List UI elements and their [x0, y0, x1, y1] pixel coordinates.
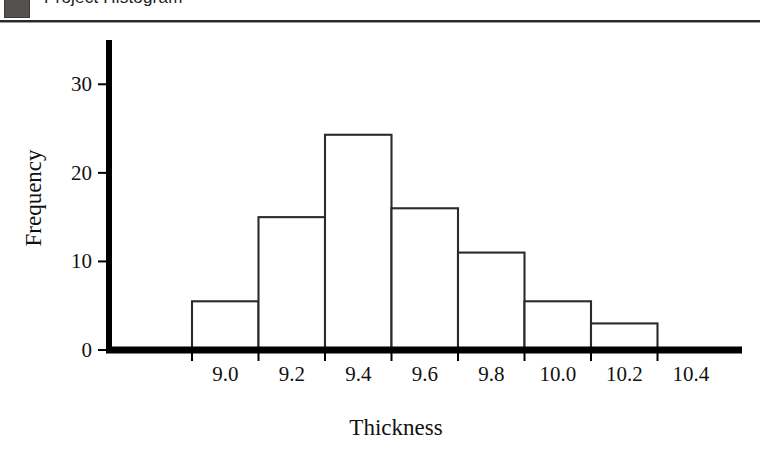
x-axis-title: Thickness [349, 415, 442, 440]
figure-header: Project Histogram [0, 0, 760, 23]
x-tick-label: 9.2 [279, 362, 305, 386]
histogram-plot: 0102030 9.09.29.49.69.810.010.210.4 Freq… [0, 23, 760, 470]
y-tick-label: 20 [71, 161, 92, 185]
histogram-bar [325, 135, 392, 350]
x-tick-label: 9.4 [345, 362, 372, 386]
y-tick-label: 30 [71, 72, 92, 96]
x-axis-ticks: 9.09.29.49.69.810.010.210.4 [192, 353, 710, 386]
histogram-bar [192, 301, 259, 350]
x-tick-label: 10.4 [672, 362, 709, 386]
solid-square-icon [4, 0, 30, 18]
y-tick-label: 10 [71, 249, 92, 273]
x-tick-label: 9.0 [212, 362, 238, 386]
y-axis-title: Frequency [21, 149, 46, 247]
y-tick-label: 0 [82, 338, 93, 362]
histogram-bars [192, 135, 658, 350]
x-tick-label: 10.0 [539, 362, 576, 386]
histogram-figure: 0102030 9.09.29.49.69.810.010.210.4 Freq… [0, 23, 760, 470]
page-title: Project Histogram [44, 0, 183, 8]
histogram-bar [591, 323, 658, 350]
histogram-bar [458, 253, 525, 350]
x-tick-label: 9.8 [478, 362, 504, 386]
histogram-bar [525, 301, 592, 350]
x-tick-label: 9.6 [412, 362, 438, 386]
histogram-bar [392, 208, 459, 350]
x-tick-label: 10.2 [606, 362, 643, 386]
histogram-bar [259, 217, 326, 350]
y-axis-ticks: 0102030 [71, 72, 107, 362]
